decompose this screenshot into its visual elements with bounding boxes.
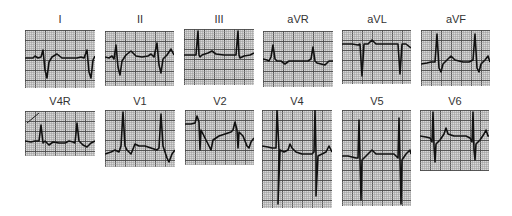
lead-label-v4r: V4R <box>25 95 95 107</box>
ecg-strip <box>105 110 175 167</box>
lead-label-iii: III <box>184 13 254 25</box>
ecg-strip <box>105 31 174 86</box>
ecg-panel-avr <box>263 31 333 87</box>
ecg-panel-v4r <box>25 111 95 156</box>
lead-label-avr: aVR <box>263 13 333 25</box>
ecg-panel-v6 <box>420 110 489 171</box>
ecg-panel-avl <box>342 30 411 84</box>
ecg-strip <box>184 29 254 85</box>
lead-label-v2: V2 <box>185 95 255 107</box>
ecg-strip <box>262 110 332 208</box>
ecg-strip <box>25 111 95 156</box>
ecg-strip <box>421 30 490 86</box>
ecg-panel-ii <box>105 31 174 86</box>
lead-label-v4: V4 <box>262 95 332 107</box>
ecg-strip <box>263 31 333 87</box>
ecg-panel-v1 <box>105 110 175 167</box>
lead-label-i: I <box>25 13 95 25</box>
ecg-strip <box>185 110 254 165</box>
lead-label-v1: V1 <box>105 95 175 107</box>
lead-label-avf: aVF <box>421 13 491 25</box>
ecg-panel-i <box>25 30 95 88</box>
ecg-panel-avf <box>421 30 490 86</box>
ecg-strip <box>25 30 95 88</box>
ecg-strip <box>342 30 411 84</box>
lead-label-ii: II <box>105 13 175 25</box>
ecg-strip <box>420 110 489 171</box>
ecg-panel-iii <box>184 29 254 85</box>
lead-label-avl: aVL <box>342 13 412 25</box>
ecg-panel-v5 <box>342 110 411 206</box>
lead-label-v6: V6 <box>420 95 490 107</box>
lead-label-v5: V5 <box>342 95 412 107</box>
ecg-strip <box>342 110 411 206</box>
ecg-panel-v2 <box>185 110 254 165</box>
ecg-panel-v4 <box>262 110 332 208</box>
